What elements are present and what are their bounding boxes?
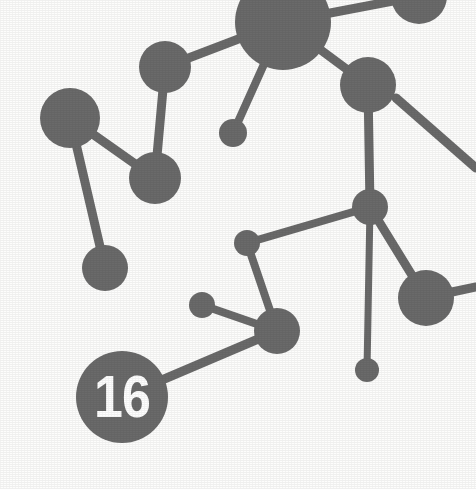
node-right-node [398, 270, 454, 326]
right-edge-stub-from-n7 [396, 98, 476, 168]
node-mid-small-node [234, 230, 260, 256]
badge-label-16: 16 [94, 364, 150, 430]
figure-canvas: 16 [0, 0, 476, 489]
node-bottom-small-node [355, 358, 379, 382]
node-top-large-node [235, 0, 331, 70]
node-left-node [40, 88, 100, 148]
node-lower-small-node [189, 292, 215, 318]
node-upper-right-node [340, 57, 396, 113]
right-edge-stub-from-n11 [452, 287, 476, 292]
edge-n9-n14 [367, 207, 370, 370]
network-graph: 16 [0, 0, 476, 489]
node-mid-left-node [129, 152, 181, 204]
node-upper-left-node [139, 41, 191, 93]
node-center-junction-node [352, 189, 388, 225]
node-top-right-edge-node [391, 0, 447, 24]
node-lower-left-node [82, 245, 128, 291]
node-lower-mid-node [254, 308, 300, 354]
node-upper-mid-small-node [219, 119, 247, 147]
edge-n9-n10 [247, 207, 370, 243]
